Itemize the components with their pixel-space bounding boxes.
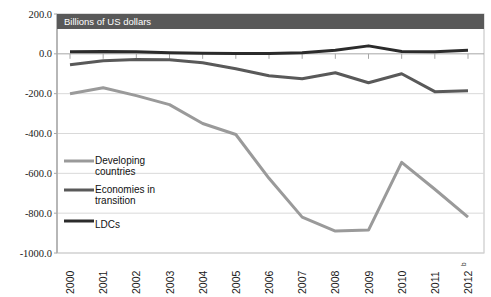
- x-axis-tick-label-text: 2007: [296, 270, 308, 294]
- x-axis-tick-label: 2003: [164, 270, 176, 294]
- y-axis-tick-label: 0.0: [39, 48, 52, 59]
- unit-banner-label: Billions of US dollars: [64, 16, 151, 27]
- y-axis-tick-label: -600.0: [25, 168, 52, 179]
- x-axis-tick-label: 2011: [429, 271, 441, 294]
- chart-container: 200.00.0-200.0-400.0-600.0-800.0-1000.0 …: [0, 0, 491, 297]
- x-axis-tick-label: 2008: [329, 270, 341, 294]
- x-axis-tick-label: 2006: [263, 270, 275, 294]
- x-axis-tick-label-superscript: b: [460, 262, 467, 266]
- legend-label: Developing: [95, 155, 145, 166]
- y-axis-tick-label: -200.0: [25, 88, 52, 99]
- x-axis-tick-label: 2010: [396, 270, 408, 294]
- x-axis-tick-label-text: 2001: [97, 270, 109, 294]
- y-axis-tick-label: -800.0: [25, 208, 52, 219]
- y-axis-tick-label: -1000.0: [20, 248, 52, 259]
- x-axis-tick-label: 2002: [130, 270, 142, 294]
- x-axis-tick-label: 2000: [64, 270, 76, 294]
- x-axis-tick-label: 2005: [230, 270, 242, 294]
- x-axis-tick-label-text: 2011: [429, 271, 441, 294]
- legend-label: Economies in: [95, 184, 155, 195]
- y-axis-tick-label: -400.0: [25, 128, 52, 139]
- x-axis-tick-label-text: 2006: [263, 270, 275, 294]
- x-axis-tick-label-text: 2009: [363, 270, 375, 294]
- x-axis-tick-label-text: 2012: [462, 270, 474, 294]
- x-axis-tick-label-text: 2010: [396, 270, 408, 294]
- x-axis-tick-label: 2009: [363, 270, 375, 294]
- x-axis-tick-label-text: 2002: [130, 270, 142, 294]
- legend-label: LDCs: [95, 219, 120, 230]
- x-axis-tick-label-text: 2003: [164, 270, 176, 294]
- x-axis-tick-label-text: 2005: [230, 270, 242, 294]
- line-chart: 200.00.0-200.0-400.0-600.0-800.0-1000.0 …: [0, 0, 491, 297]
- x-axis-tick-label-text: 2000: [64, 270, 76, 294]
- x-axis-tick-label: 2004: [197, 270, 209, 294]
- x-axis-tick-label: 2007: [296, 270, 308, 294]
- legend-label: transition: [95, 195, 136, 206]
- legend-label: countries: [95, 166, 136, 177]
- y-axis-tick-label: 200.0: [28, 9, 52, 20]
- x-axis-tick-label: 2001: [97, 270, 109, 294]
- x-axis-labels: 2000200120022003200420052006200720082009…: [64, 262, 474, 294]
- x-axis-tick-label-text: 2004: [197, 270, 209, 294]
- x-axis-tick-label: 2012b: [460, 262, 475, 294]
- x-axis-tick-label-text: 2008: [329, 270, 341, 294]
- y-axis-labels: 200.00.0-200.0-400.0-600.0-800.0-1000.0: [20, 9, 52, 259]
